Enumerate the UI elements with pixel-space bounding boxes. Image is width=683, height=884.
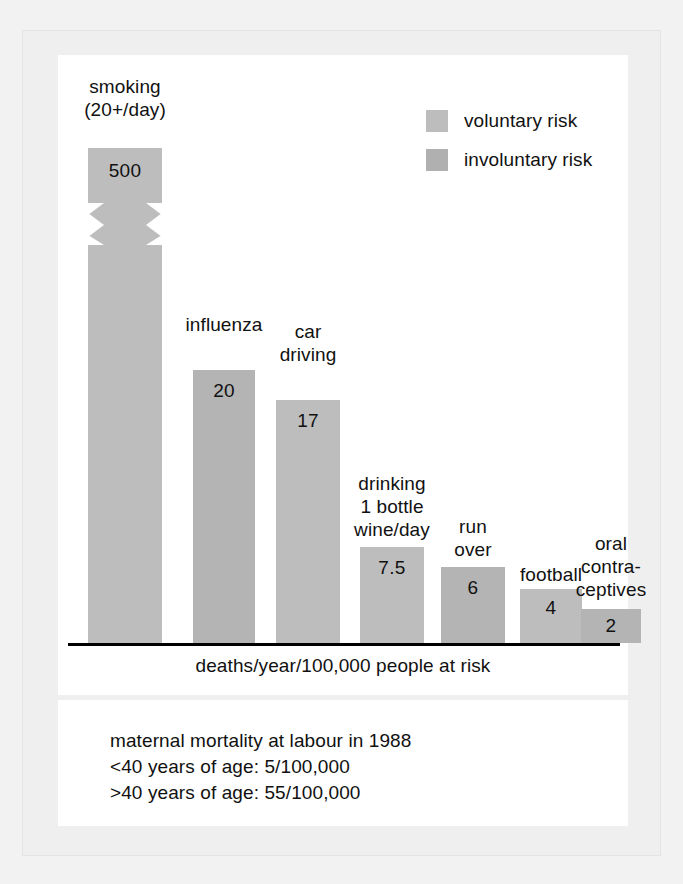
legend-swatch-involuntary-icon [426, 149, 448, 171]
footnote-panel: maternal mortality at labour in 1988 <40… [58, 700, 628, 826]
bar-oral-contraceptives: 2 [581, 609, 641, 643]
legend-item-voluntary: voluntary risk [426, 110, 626, 132]
plot-area: voluntary risk involuntary risk [58, 55, 628, 645]
chart-legend: voluntary risk involuntary risk [426, 110, 626, 188]
bar-run-over-label: run over [413, 515, 533, 561]
chart-page: voluntary risk involuntary risk [0, 0, 683, 884]
legend-swatch-voluntary-icon [426, 110, 448, 132]
axis-caption: deaths/year/100,000 people at risk [58, 655, 628, 677]
footnote-line-2: <40 years of age: 5/100,000 [110, 754, 411, 780]
bar-influenza-fill [193, 370, 255, 643]
footnote-line-3: >40 years of age: 55/100,000 [110, 780, 411, 806]
legend-label-voluntary: voluntary risk [464, 110, 577, 132]
legend-item-involuntary: involuntary risk [426, 149, 626, 171]
bar-car-driving-value: 17 [276, 410, 340, 432]
bar-oral-contraceptives-label: oral contra- ceptives [553, 532, 669, 601]
figure-panel: voluntary risk involuntary risk [58, 55, 628, 695]
bar-smoking-value: 500 [88, 160, 162, 182]
bar-drinking-wine: 7.5 [360, 547, 424, 643]
bar-car-driving-label: car driving [250, 320, 366, 366]
footnote-body: maternal mortality at labour in 1988 <40… [110, 728, 411, 806]
chart-baseline [68, 643, 620, 646]
bar-influenza-value: 20 [193, 380, 255, 402]
bar-oral-contraceptives-value: 2 [581, 615, 641, 637]
bar-smoking-fill [88, 148, 162, 643]
bar-smoking: 500 [88, 148, 162, 643]
bar-smoking-label: smoking (20+/day) [64, 75, 186, 121]
bar-influenza: 20 [193, 370, 255, 643]
legend-label-involuntary: involuntary risk [464, 149, 592, 171]
footnote-line-1: maternal mortality at labour in 1988 [110, 728, 411, 754]
